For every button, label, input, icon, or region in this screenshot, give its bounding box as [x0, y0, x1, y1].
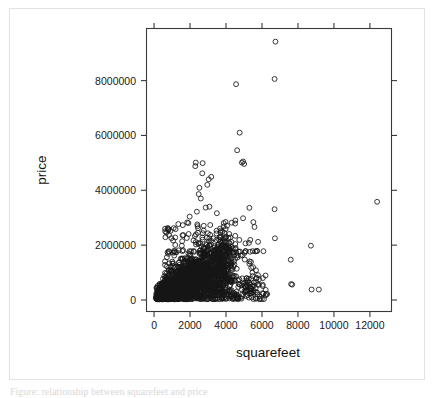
- data-point: [173, 243, 178, 248]
- data-point-outlier: [194, 209, 199, 214]
- data-point: [214, 211, 219, 216]
- data-point-outlier: [234, 82, 239, 87]
- x-tick-label: 0: [151, 319, 157, 331]
- data-point-outlier: [197, 185, 202, 190]
- data-point-outlier: [237, 237, 242, 242]
- data-point-outlier: [198, 196, 203, 201]
- data-point: [233, 233, 238, 238]
- data-point: [243, 241, 248, 246]
- data-point: [163, 235, 168, 240]
- figure-caption-text: Figure: relationship between squarefeet …: [10, 386, 310, 398]
- data-point: [201, 223, 206, 228]
- x-tick-label: 6000: [250, 319, 274, 331]
- data-point: [180, 223, 185, 228]
- x-axis-title: squarefeet: [236, 345, 300, 360]
- data-point-outlier: [316, 287, 321, 292]
- data-point: [176, 222, 181, 227]
- data-point: [252, 225, 257, 230]
- y-tick-label: 4000000: [95, 184, 136, 196]
- data-point-outlier: [261, 249, 266, 254]
- x-tick-label: 2000: [178, 319, 202, 331]
- scatter-plot: 020004000600080001000012000 020000004000…: [0, 0, 435, 398]
- data-point-outlier: [248, 237, 253, 242]
- data-points-group: [154, 39, 380, 302]
- data-point: [233, 221, 238, 226]
- x-tick-label: 10000: [319, 319, 348, 331]
- x-axis-tick-labels: 020004000600080001000012000: [151, 319, 385, 331]
- x-tick-label: 12000: [355, 319, 384, 331]
- data-point-outlier: [272, 77, 277, 82]
- data-point-outlier: [288, 257, 293, 262]
- data-point: [256, 239, 261, 244]
- data-point-outlier: [200, 171, 205, 176]
- data-point-outlier: [237, 130, 242, 135]
- data-point-outlier: [308, 243, 313, 248]
- y-tick-label: 6000000: [95, 129, 136, 141]
- data-point-outlier: [273, 39, 278, 44]
- data-point-outlier: [309, 287, 314, 292]
- x-tick-label: 4000: [214, 319, 238, 331]
- data-point-outlier: [193, 164, 198, 169]
- y-tick-label: 2000000: [95, 239, 136, 251]
- figure-root: 020004000600080001000012000 020000004000…: [0, 0, 435, 398]
- data-point-outlier: [375, 199, 380, 204]
- y-axis-title: price: [34, 155, 49, 184]
- data-point: [208, 223, 213, 228]
- data-point-outlier: [235, 148, 240, 153]
- y-tick-label: 0: [130, 294, 136, 306]
- data-point-outlier: [272, 207, 277, 212]
- data-point: [229, 220, 234, 225]
- figure-caption-strip: Figure: relationship between squarefeet …: [10, 386, 310, 398]
- data-point: [254, 268, 259, 273]
- data-point: [186, 232, 191, 237]
- data-point-outlier: [200, 161, 205, 166]
- data-point: [241, 216, 246, 221]
- data-point-outlier: [272, 236, 277, 241]
- x-tick-label: 8000: [286, 319, 310, 331]
- data-point-outlier: [205, 182, 210, 187]
- scatter-plot-svg: 020004000600080001000012000 020000004000…: [0, 0, 435, 398]
- data-point-outlier: [251, 220, 256, 225]
- data-point-outlier: [187, 214, 192, 219]
- y-tick-label: 8000000: [95, 75, 136, 87]
- y-axis-tick-labels: 02000000400000060000008000000: [95, 75, 136, 306]
- data-point-outlier: [247, 205, 252, 210]
